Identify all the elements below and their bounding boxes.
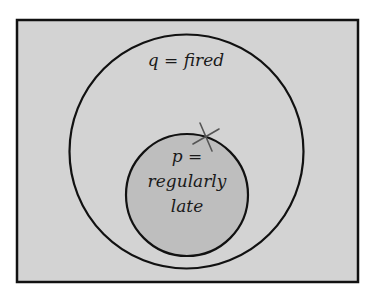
inner-set-label-line3: late	[171, 196, 203, 216]
outer-set-label: q = fired	[148, 50, 224, 70]
inner-set-label-line2: regularly	[148, 171, 227, 191]
euler-diagram: q = fired p = regularly late	[0, 0, 373, 296]
inner-set-label-line1: p =	[172, 146, 203, 166]
